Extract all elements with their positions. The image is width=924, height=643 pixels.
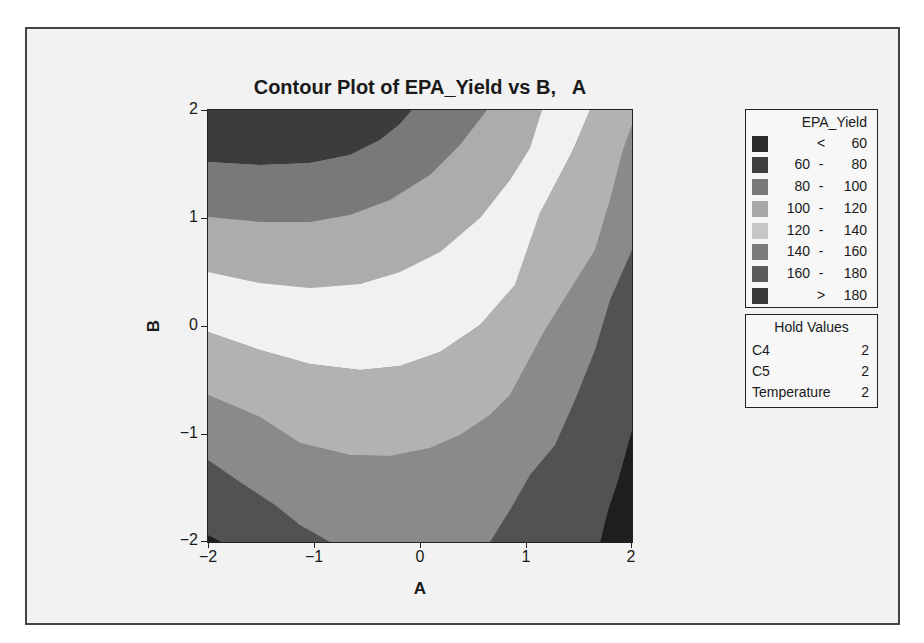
y-tick	[201, 326, 208, 327]
x-tick-label: −2	[188, 548, 228, 566]
legend-operator: -	[814, 265, 828, 281]
y-tick-label: 1	[160, 208, 198, 226]
legend-entry: 60 - 80	[746, 156, 877, 174]
legend-high: 160	[827, 243, 867, 259]
legend: EPA_Yield < 60 60 - 80 80 - 100 100 - 12…	[745, 109, 878, 308]
hold-value: 2	[861, 384, 869, 400]
hold-value-row: C4 2	[752, 342, 869, 360]
y-tick	[201, 110, 208, 111]
hold-values-title: Hold Values	[746, 319, 877, 335]
y-tick-label: −2	[160, 531, 198, 549]
hold-value: 2	[861, 363, 869, 379]
y-tick	[201, 218, 208, 219]
legend-swatch	[752, 157, 768, 173]
legend-swatch	[752, 266, 768, 282]
legend-low: 60	[774, 156, 810, 172]
legend-swatch	[752, 244, 768, 260]
x-axis-title: A	[400, 579, 440, 599]
legend-high: 100	[827, 178, 867, 194]
legend-high: 140	[827, 222, 867, 238]
legend-title: EPA_Yield	[746, 114, 877, 130]
legend-entry: 160 - 180	[746, 265, 877, 283]
legend-entry: 120 - 140	[746, 222, 877, 240]
legend-high: 180	[827, 265, 867, 281]
contour-surface	[208, 110, 632, 542]
x-tick-label: 2	[611, 548, 651, 566]
legend-operator: <	[814, 135, 828, 151]
legend-swatch	[752, 179, 768, 195]
x-tick-label: 0	[400, 548, 440, 566]
legend-high: 60	[827, 135, 867, 151]
legend-operator: >	[814, 287, 828, 303]
legend-high: 80	[827, 156, 867, 172]
hold-value-name: C4	[752, 342, 770, 358]
hold-value-name: C5	[752, 363, 770, 379]
legend-high: 180	[827, 287, 867, 303]
legend-entry: > 180	[746, 287, 877, 305]
contour-plot-area	[208, 110, 632, 542]
legend-entry: 80 - 100	[746, 178, 877, 196]
hold-value-name: Temperature	[752, 384, 831, 400]
hold-value: 2	[861, 342, 869, 358]
x-tick-label: 1	[506, 548, 546, 566]
hold-value-row: Temperature 2	[752, 384, 869, 402]
hold-value-row: C5 2	[752, 363, 869, 381]
legend-operator: -	[814, 222, 828, 238]
y-axis-title: B	[144, 316, 168, 336]
hold-values-box: Hold Values C4 2 C5 2 Temperature 2	[745, 314, 878, 408]
legend-entry: 100 - 120	[746, 200, 877, 218]
legend-operator: -	[814, 178, 828, 194]
legend-high: 120	[827, 200, 867, 216]
y-tick-label: 2	[160, 100, 198, 118]
y-tick	[201, 434, 208, 435]
x-tick-label: −1	[294, 548, 334, 566]
legend-swatch	[752, 136, 768, 152]
legend-low: 140	[774, 243, 810, 259]
legend-entry: 140 - 160	[746, 243, 877, 261]
legend-operator: -	[814, 200, 828, 216]
legend-low: 120	[774, 222, 810, 238]
chart-title: Contour Plot of EPA_Yield vs B, A	[208, 76, 632, 99]
y-tick-label: −1	[160, 424, 198, 442]
y-tick	[201, 541, 208, 542]
legend-entry: < 60	[746, 135, 877, 153]
legend-low: 160	[774, 265, 810, 281]
legend-swatch	[752, 223, 768, 239]
legend-swatch	[752, 288, 768, 304]
legend-operator: -	[814, 243, 828, 259]
legend-operator: -	[814, 156, 828, 172]
legend-swatch	[752, 201, 768, 217]
legend-low: 80	[774, 178, 810, 194]
legend-low: 100	[774, 200, 810, 216]
